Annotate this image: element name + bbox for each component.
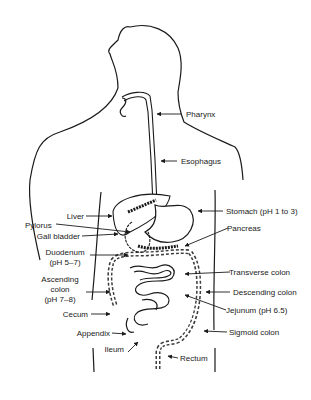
label-jejunum: Jejunum (pH 6.5) xyxy=(226,306,288,315)
leader-lines xyxy=(56,114,230,358)
pancreas xyxy=(138,246,178,248)
label-duodenum: Duodenum xyxy=(45,248,84,257)
label-ascending-colon-2: colon xyxy=(50,285,69,294)
esophagus-tube xyxy=(122,92,157,205)
label-ileum: Ileum xyxy=(104,345,124,354)
label-liver: Liver xyxy=(67,212,85,221)
label-ascending-colon-ph: (pH 7–8) xyxy=(44,295,75,304)
label-sigmoid-colon: Sigmoid colon xyxy=(229,328,279,337)
label-appendix: Appendix xyxy=(77,329,110,338)
label-transverse-colon: Transverse colon xyxy=(229,268,290,277)
label-pharynx: Pharynx xyxy=(186,110,215,119)
label-descending-colon: Descending colon xyxy=(233,288,297,297)
label-pylorus: Pylorus xyxy=(25,221,52,230)
label-ascending-colon: Ascending xyxy=(41,275,78,284)
label-esophagus: Esophagus xyxy=(181,157,221,166)
label-cecum: Cecum xyxy=(63,310,89,319)
label-rectum: Rectum xyxy=(180,354,208,363)
small-intestine xyxy=(126,265,174,332)
label-duodenum-ph: (pH 5–7) xyxy=(49,258,80,267)
label-pancreas: Pancreas xyxy=(227,224,261,233)
label-stomach: Stomach (pH 1 to 3) xyxy=(226,207,298,216)
digestive-system-diagram: Pharynx Esophagus Liver Pylorus Gall bla… xyxy=(0,0,311,400)
label-gall-bladder: Gall bladder xyxy=(37,232,80,241)
